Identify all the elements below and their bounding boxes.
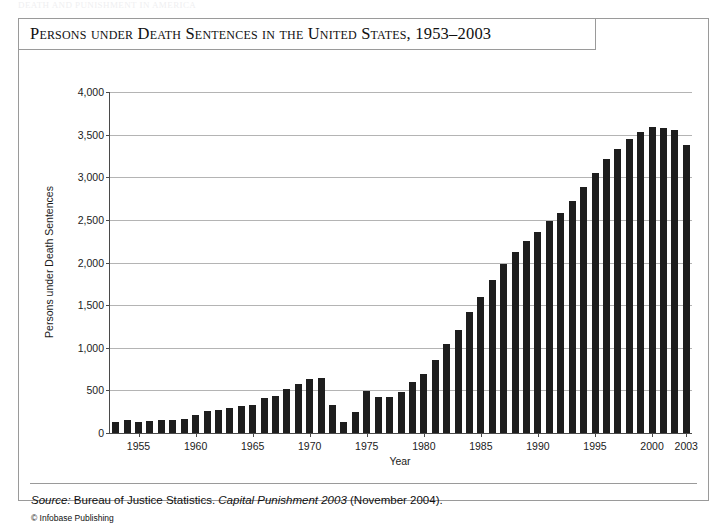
publisher-credit: © Infobase Publishing bbox=[31, 513, 114, 523]
y-tick-mark bbox=[106, 348, 110, 349]
y-tick-label: 0 bbox=[98, 427, 104, 439]
plot-area: 05001,0001,5002,0002,5003,0003,5004,000 … bbox=[109, 92, 692, 434]
x-tick-label: 1995 bbox=[583, 440, 606, 452]
bar-1962 bbox=[215, 410, 222, 433]
bar-1953 bbox=[112, 422, 119, 433]
bar-1996 bbox=[603, 159, 610, 433]
bar-1969 bbox=[295, 384, 302, 433]
x-tick-mark bbox=[652, 433, 653, 437]
bar-1967 bbox=[272, 396, 279, 433]
bar-1993 bbox=[569, 201, 576, 433]
bar-1981 bbox=[432, 360, 439, 433]
bar-1970 bbox=[306, 379, 313, 433]
x-tick-mark bbox=[538, 433, 539, 437]
bar-1955 bbox=[135, 422, 142, 433]
source-label: Source: bbox=[31, 494, 71, 506]
bar-1957 bbox=[158, 420, 165, 433]
x-tick-label: 1970 bbox=[298, 440, 321, 452]
bar-1982 bbox=[443, 344, 450, 434]
bar-1968 bbox=[283, 389, 290, 433]
x-tick-label: 1960 bbox=[184, 440, 207, 452]
bar-1986 bbox=[489, 280, 496, 433]
bar-1980 bbox=[420, 374, 427, 433]
y-tick-mark bbox=[106, 177, 110, 178]
y-tick-mark bbox=[106, 135, 110, 136]
bar-1964 bbox=[238, 406, 245, 433]
bar-1963 bbox=[226, 408, 233, 433]
x-tick-mark bbox=[686, 433, 687, 437]
bar-1983 bbox=[455, 330, 462, 433]
x-tick-label: 1980 bbox=[412, 440, 435, 452]
bar-1959 bbox=[181, 419, 188, 433]
y-tick-label: 500 bbox=[86, 384, 104, 396]
bar-1958 bbox=[169, 420, 176, 433]
x-tick-label: 1985 bbox=[469, 440, 492, 452]
bar-1998 bbox=[626, 139, 633, 433]
source-note: Source: Bureau of Justice Statistics. Ca… bbox=[31, 494, 443, 506]
gridline bbox=[110, 135, 692, 136]
bar-1965 bbox=[249, 405, 256, 433]
bar-1975 bbox=[363, 391, 370, 433]
source-publication: Capital Punishment 2003 bbox=[218, 494, 347, 506]
bar-1992 bbox=[557, 213, 564, 433]
y-tick-label: 1,000 bbox=[78, 342, 104, 354]
gridline bbox=[110, 92, 692, 93]
y-axis-title: Persons under Death Sentences bbox=[43, 186, 55, 338]
x-tick-mark bbox=[367, 433, 368, 437]
bar-1971 bbox=[318, 378, 325, 433]
x-tick-mark bbox=[595, 433, 596, 437]
footer-divider bbox=[30, 483, 697, 484]
bar-1985 bbox=[477, 297, 484, 433]
x-tick-mark bbox=[139, 433, 140, 437]
bar-2003 bbox=[683, 145, 690, 433]
x-tick-mark bbox=[424, 433, 425, 437]
y-tick-mark bbox=[106, 263, 110, 264]
bar-1987 bbox=[500, 264, 507, 433]
bar-2000 bbox=[649, 127, 656, 433]
bar-2001 bbox=[660, 128, 667, 433]
source-text-1: Bureau of Justice Statistics. bbox=[71, 494, 219, 506]
figure-title-box: Persons under Death Sentences in the Uni… bbox=[18, 18, 596, 50]
plot-wrapper: Persons under Death Sentences 05001,0001… bbox=[19, 51, 708, 500]
x-tick-mark bbox=[481, 433, 482, 437]
bar-1978 bbox=[398, 392, 405, 433]
figure-title: Persons under Death Sentences in the Uni… bbox=[19, 24, 491, 44]
source-text-2: (November 2004). bbox=[347, 494, 443, 506]
x-tick-label: 1975 bbox=[355, 440, 378, 452]
y-tick-mark bbox=[106, 92, 110, 93]
bar-1995 bbox=[592, 173, 599, 433]
bar-1991 bbox=[546, 221, 553, 433]
figure-frame: Persons under Death Sentences in the Uni… bbox=[18, 18, 709, 501]
bar-1954 bbox=[124, 420, 131, 433]
page-running-header: DEATH AND PUNISHMENT IN AMERICA bbox=[18, 0, 438, 12]
bar-1979 bbox=[409, 382, 416, 433]
bar-1999 bbox=[637, 132, 644, 433]
x-axis-title: Year bbox=[109, 455, 691, 467]
bar-1984 bbox=[466, 312, 473, 433]
bar-1988 bbox=[512, 252, 519, 433]
bar-1961 bbox=[204, 411, 211, 433]
bar-1977 bbox=[386, 397, 393, 433]
bar-1976 bbox=[375, 397, 382, 433]
bar-1972 bbox=[329, 405, 336, 433]
x-tick-mark bbox=[196, 433, 197, 437]
bar-1960 bbox=[192, 415, 199, 433]
y-tick-mark bbox=[106, 220, 110, 221]
y-tick-label: 4,000 bbox=[78, 86, 104, 98]
y-tick-mark bbox=[106, 305, 110, 306]
bar-1974 bbox=[352, 412, 359, 433]
y-tick-mark bbox=[106, 390, 110, 391]
bar-1956 bbox=[146, 421, 153, 433]
x-tick-mark bbox=[253, 433, 254, 437]
x-tick-label: 1965 bbox=[241, 440, 264, 452]
bar-1989 bbox=[523, 241, 530, 433]
y-tick-mark bbox=[106, 433, 110, 434]
gridline bbox=[110, 433, 692, 434]
x-tick-label: 2003 bbox=[675, 440, 698, 452]
y-tick-label: 1,500 bbox=[78, 299, 104, 311]
bar-2002 bbox=[671, 130, 678, 433]
bar-1990 bbox=[534, 232, 541, 433]
y-tick-label: 3,500 bbox=[78, 129, 104, 141]
x-tick-label: 1990 bbox=[526, 440, 549, 452]
bar-1966 bbox=[261, 398, 268, 433]
